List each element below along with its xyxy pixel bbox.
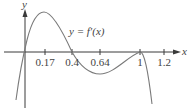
tick-label-0-64: 0.64 bbox=[90, 56, 110, 68]
x-axis-label: x bbox=[181, 45, 187, 57]
tick-label-1: 1 bbox=[137, 56, 143, 68]
tick-label-0-17: 0.17 bbox=[35, 56, 55, 68]
y-axis-arrow-icon bbox=[23, 9, 28, 17]
y-axis-label: y bbox=[21, 0, 27, 10]
tick-label-0-4: 0.4 bbox=[65, 56, 79, 68]
derivative-graph: y x y = f′(x) 0.17 0.4 0.64 1 1.2 bbox=[0, 0, 192, 111]
tick-label-1-2: 1.2 bbox=[157, 56, 171, 68]
curve-label: y = f′(x) bbox=[68, 25, 105, 38]
x-axis-arrow-icon bbox=[173, 50, 181, 55]
